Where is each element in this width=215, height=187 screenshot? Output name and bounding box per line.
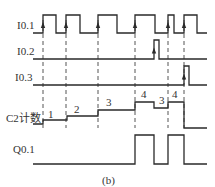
counter-value-2: 2: [74, 104, 80, 115]
dashed-guide-lines: [43, 20, 184, 128]
rising-edge-arrows: [41, 22, 186, 80]
signal-label-i0-2: I0.2: [17, 46, 34, 57]
rising-edge-arrow-icon: [64, 22, 68, 28]
rising-edge-arrow-icon: [133, 22, 137, 28]
signal-label-i0-3: I0.3: [15, 72, 32, 83]
counter-value-4b: 4: [172, 89, 178, 100]
rising-edge-arrow-icon: [152, 48, 156, 54]
rising-edge-arrow-icon: [166, 22, 170, 28]
waveform-i01: [33, 15, 207, 33]
signal-label-q0-1: Q0.1: [13, 144, 35, 155]
counter-value-4a: 4: [141, 89, 147, 100]
waveform-i02: [33, 40, 207, 59]
waveforms: [33, 15, 207, 164]
rising-edge-arrow-icon: [41, 22, 45, 28]
rising-edge-arrow-icon: [182, 74, 186, 80]
waveform-q01: [33, 135, 207, 164]
waveform-i03: [33, 66, 207, 85]
rising-edge-arrow-icon: [96, 22, 100, 28]
signal-label-i0-1: I0.1: [17, 20, 34, 31]
waveform-c2-count: [33, 102, 207, 128]
counter-value-1: 1: [48, 109, 54, 120]
counter-value-3: 3: [106, 97, 112, 108]
rising-edge-arrow-icon: [182, 22, 186, 28]
figure-caption: (b): [102, 175, 115, 186]
counter-value-3b: 3: [159, 95, 165, 106]
signal-label-c2-count: C2计数: [6, 113, 41, 124]
